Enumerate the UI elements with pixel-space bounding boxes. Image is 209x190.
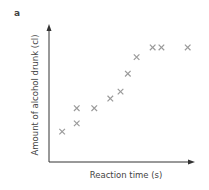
data-point-x-marker-icon <box>150 45 156 51</box>
data-point-x-marker-icon <box>74 121 80 127</box>
x-axis <box>49 160 195 165</box>
data-point-x-marker-icon <box>74 105 80 111</box>
y-axis-arrow-icon <box>47 24 52 31</box>
data-point-x-marker-icon <box>91 105 97 111</box>
x-axis-arrow-icon <box>188 160 195 165</box>
scatter-chart: Reaction time (s) Amount of alcohol drun… <box>0 0 209 190</box>
data-point-x-marker-icon <box>134 54 140 60</box>
data-point-x-marker-icon <box>59 129 65 135</box>
data-points <box>59 45 190 135</box>
y-axis-label: Amount of alcohol drunk (cl) <box>30 34 40 155</box>
data-point-x-marker-icon <box>185 45 191 51</box>
data-point-x-marker-icon <box>118 89 124 95</box>
y-axis <box>47 24 52 162</box>
data-point-x-marker-icon <box>159 45 165 51</box>
data-point-x-marker-icon <box>125 71 131 77</box>
data-point-x-marker-icon <box>108 96 114 102</box>
x-axis-label: Reaction time (s) <box>90 170 163 180</box>
